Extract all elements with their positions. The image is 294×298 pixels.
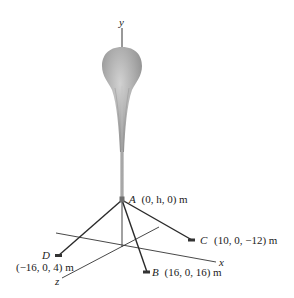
point-A-label: A (0, h, 0) m [128,193,188,206]
cable-AD [58,200,122,256]
cable-AB [122,200,147,272]
y-axis-label: y [118,16,124,28]
point-D-label: D [41,249,50,261]
point-B-label: B (16, 0, 16) m [152,266,222,279]
z-axis-line [62,227,159,278]
point-D-coords: (−16, 0, 4) m [16,261,74,274]
anchor-D [55,254,62,257]
cable-AC [122,200,192,240]
tether [121,150,124,197]
anchor-B [143,271,150,274]
anchor-C [188,239,195,242]
balloon [102,47,142,152]
anchor-A [120,197,125,203]
z-axis-label: z [54,275,60,287]
point-C-label: C (10, 0, −12) m [200,234,278,247]
balloon-diagram: y x z A (0, h, 0) m C (10, 0, −12) m B (… [0,0,294,298]
